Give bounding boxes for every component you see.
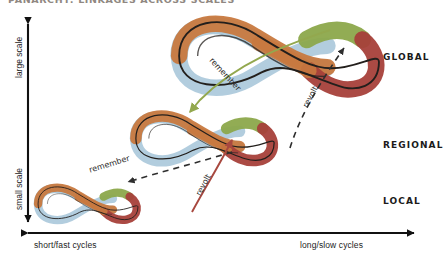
x-axis-right-label: long/slow cycles: [300, 240, 363, 250]
scale-label-local: LOCAL: [383, 196, 421, 206]
regional-cycle: [136, 115, 274, 161]
global-cycle: [179, 22, 379, 89]
figure-canvas: [0, 0, 447, 258]
panarchy-diagram: PANARCHY: LINKAGES ACROSS SCALES: [0, 0, 447, 258]
scale-label-global: GLOBAL: [383, 52, 430, 62]
scale-label-regional: REGIONAL: [383, 140, 444, 150]
y-axis-top-label: large scale: [14, 37, 24, 78]
x-axis-left-label: short/fast cycles: [34, 240, 97, 250]
y-axis-bottom-label: small scale: [14, 168, 24, 210]
local-cycle: [38, 187, 138, 220]
